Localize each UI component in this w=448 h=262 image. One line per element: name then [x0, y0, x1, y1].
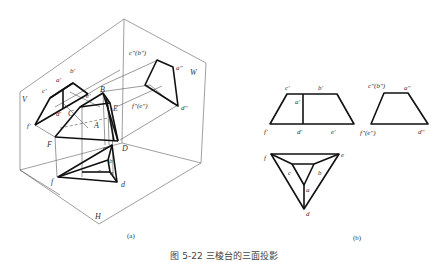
panel-a-labels: V H W B C A E F D c' a' b' e' d' f' e b … [22, 49, 198, 240]
label-c-prime: c' [42, 87, 47, 95]
figure-caption: 图 5-22 三棱台的三面投影 [0, 249, 448, 262]
plane-h-label: H [94, 212, 102, 221]
label-b-prime: b' [70, 67, 76, 75]
point-F-label: F [46, 140, 52, 149]
point-D-label: D [121, 144, 128, 153]
label-a-top: a [110, 169, 114, 177]
label-fe-side: f"(e") [132, 102, 148, 110]
plane-v-label: V [22, 95, 28, 104]
plane-w-label: W [190, 68, 198, 77]
fv-label-e: e' [331, 128, 336, 136]
point-C-label: C [68, 109, 74, 118]
sv-label-a: a" [404, 84, 411, 92]
label-d-prime: d' [56, 110, 62, 118]
fv-label-a: a' [295, 98, 301, 106]
projection-box [20, 19, 206, 224]
label-e-prime: e' [86, 92, 91, 100]
sv-label-fe: f"(e") [360, 129, 376, 137]
point-E-label: E [112, 104, 118, 113]
point-B-label: B [100, 85, 105, 94]
label-b-top: b [109, 157, 113, 165]
label-e-top: e [103, 144, 106, 152]
front-view: c' b' a' f' d' e' [264, 84, 354, 136]
side-view: c"(b") a" f"(e") d" [360, 82, 428, 137]
label-a-prime: a' [56, 76, 62, 84]
tv-label-e: e [341, 151, 344, 159]
fv-label-d: d' [297, 128, 303, 136]
panel-b-caption: (b) [353, 234, 362, 242]
tv-label-f: f [264, 154, 267, 162]
point-A-label: A [93, 121, 99, 130]
tv-label-d: d [306, 210, 310, 218]
label-cb-side: c"(b") [129, 49, 147, 57]
fv-label-f: f' [264, 128, 268, 136]
side-projection-shape [145, 60, 178, 106]
tv-label-a: a [306, 186, 310, 194]
sv-label-d: d" [418, 128, 425, 136]
panel-a-caption: (a) [127, 232, 135, 240]
top-view: f e c b a d [264, 151, 344, 218]
label-a-side: a" [176, 64, 183, 72]
label-d-top: d [121, 180, 126, 189]
tv-label-b: b [318, 169, 322, 177]
label-f-prime: f' [27, 122, 31, 130]
label-f-top: f [51, 177, 55, 186]
fv-label-c: c' [285, 84, 290, 92]
label-c-top: c [98, 167, 102, 175]
tv-label-c: c [288, 169, 292, 177]
fv-label-b: b' [318, 84, 324, 92]
sv-label-cb: c"(b") [368, 82, 386, 90]
label-d-side: d" [181, 104, 188, 112]
